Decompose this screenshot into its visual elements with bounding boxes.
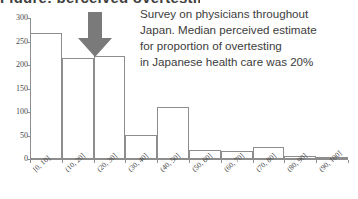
x-tick-mark bbox=[94, 160, 95, 163]
down-arrow-icon bbox=[76, 12, 114, 57]
x-tick-mark bbox=[125, 160, 126, 163]
note-text-block: Survey on physicians throughout Japan. M… bbox=[140, 6, 356, 70]
x-tick-label: (50, 60] bbox=[190, 151, 214, 174]
note-line-2: Japan. Median perceived estimate bbox=[140, 22, 356, 38]
y-tick-mark bbox=[27, 65, 30, 66]
x-tick-mark bbox=[253, 160, 254, 163]
x-tick-label: (70, 80] bbox=[254, 151, 278, 174]
y-tick-mark bbox=[27, 136, 30, 137]
x-tick-mark bbox=[348, 160, 349, 163]
x-tick-label: (30, 40] bbox=[126, 151, 150, 174]
note-line-4: in Japanese health care was 20% bbox=[140, 54, 356, 70]
x-tick-label: (20, 30] bbox=[95, 151, 119, 174]
x-tick-label: (10, 20] bbox=[63, 151, 87, 174]
x-tick-mark bbox=[221, 160, 222, 163]
x-tick-mark bbox=[30, 160, 31, 163]
x-tick-label: (40, 50] bbox=[158, 151, 182, 174]
y-tick-mark bbox=[27, 89, 30, 90]
y-tick-mark bbox=[27, 42, 30, 43]
x-tick-label: (80, 90] bbox=[285, 151, 309, 174]
note-line-1: Survey on physicians throughout bbox=[140, 6, 356, 22]
x-tick-mark bbox=[157, 160, 158, 163]
x-tick-label: (60, 70] bbox=[222, 151, 246, 174]
y-tick-mark bbox=[27, 18, 30, 19]
x-tick-label: [0, 10] bbox=[31, 154, 52, 174]
y-tick-mark bbox=[27, 112, 30, 113]
x-tick-mark bbox=[189, 160, 190, 163]
x-tick-label: (90, 100] bbox=[317, 149, 343, 174]
x-tick-mark bbox=[62, 160, 63, 163]
x-tick-mark bbox=[316, 160, 317, 163]
note-line-3: for proportion of overtesting bbox=[140, 38, 356, 54]
x-tick-mark bbox=[284, 160, 285, 163]
